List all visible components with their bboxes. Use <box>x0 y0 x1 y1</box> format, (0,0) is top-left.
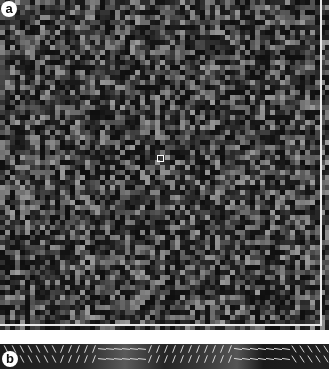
panel-label-b: b <box>2 351 18 367</box>
noise-canvas <box>0 0 329 330</box>
frame-right-edge <box>320 0 322 326</box>
center-marker <box>157 155 164 162</box>
panel-a-noise-texture <box>0 0 329 330</box>
panel-gap <box>0 330 329 344</box>
panel-b-orientation-field <box>0 344 329 369</box>
panel-label-a: a <box>1 1 17 17</box>
frame-bottom-edge <box>0 324 322 326</box>
orientation-canvas <box>0 344 329 369</box>
